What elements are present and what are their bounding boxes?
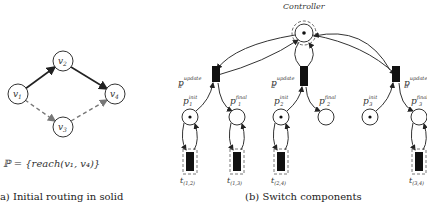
place-p3-final bbox=[411, 109, 427, 125]
arc-t12-p1init bbox=[194, 124, 197, 150]
arc-t24-p2init bbox=[285, 124, 288, 150]
place-p1-init bbox=[182, 109, 198, 125]
node-v1: v1 bbox=[8, 84, 28, 104]
arc-controller-p3update bbox=[313, 35, 395, 74]
edge-v1-v2 bbox=[25, 67, 55, 89]
arc-p3init-update bbox=[376, 83, 393, 111]
edge-v3-v4 bbox=[71, 100, 107, 121]
transition-p3-update bbox=[392, 66, 400, 82]
token-icon bbox=[302, 31, 306, 35]
caption-a: (a) Initial routing in solid bbox=[0, 191, 124, 202]
p1-update-label: pupdate1 bbox=[178, 75, 201, 89]
t34-label: t(3,4) bbox=[409, 176, 424, 186]
transition-t24 bbox=[274, 149, 288, 174]
p1-final-label: pfinal1 bbox=[230, 94, 247, 107]
p3-final-label: pfinal3 bbox=[411, 94, 427, 107]
arc-p3final-t34 bbox=[411, 123, 415, 150]
arc-t34-p3final bbox=[423, 124, 426, 150]
routing-graph: v1 v2 v3 v4 bbox=[8, 51, 125, 137]
arc-p1init-t12 bbox=[182, 123, 186, 150]
arc-p2update-loop-left bbox=[295, 42, 300, 66]
caption-b: (b) Switch components bbox=[245, 191, 362, 202]
policy-formula: ℙ = {reach(v₁, v₄)} bbox=[3, 158, 100, 169]
arc-p1final-t13 bbox=[229, 123, 233, 150]
edge-v2-v4 bbox=[71, 67, 107, 89]
t24-label: t(2,4) bbox=[271, 176, 286, 186]
transition-t13 bbox=[230, 149, 244, 174]
figure-canvas: v1 v2 v3 v4 ℙ = {reach(v₁, v₄)} (a) Init… bbox=[0, 0, 427, 202]
p2-final-label: pfinal2 bbox=[319, 94, 336, 107]
t13-label: t(1,3) bbox=[227, 176, 242, 186]
controller-label: Controller bbox=[283, 2, 326, 11]
arc-p2init-t24 bbox=[273, 123, 277, 150]
p3-update-label: pupdate3 bbox=[404, 75, 427, 89]
place-p1-final bbox=[229, 109, 245, 125]
place-p3-init bbox=[362, 109, 378, 125]
place-p2-final bbox=[318, 109, 334, 125]
p2-init-label: pinit2 bbox=[274, 94, 289, 107]
edge-v1-v3 bbox=[25, 100, 55, 121]
p1-init-label: pinit1 bbox=[183, 94, 198, 107]
p2-update-label: pupdate2 bbox=[271, 75, 294, 89]
transition-p2-update bbox=[300, 66, 308, 86]
t12-label: t(1,2) bbox=[180, 176, 195, 186]
node-v4: v4 bbox=[105, 84, 125, 104]
arc-t13-p1final bbox=[241, 124, 244, 150]
arc-controller-p1update bbox=[217, 35, 295, 69]
arc-p1init-update bbox=[196, 83, 213, 111]
transition-t12 bbox=[183, 149, 197, 174]
arc-p2init-update bbox=[287, 87, 302, 111]
node-v3: v3 bbox=[53, 117, 73, 137]
arc-p2update-loop-right bbox=[308, 43, 313, 66]
transition-p1-update bbox=[212, 66, 220, 82]
arc-update-p2final bbox=[306, 87, 320, 111]
p3-init-label: pinit3 bbox=[363, 94, 378, 107]
transition-t34 bbox=[412, 149, 426, 174]
node-v2: v2 bbox=[53, 51, 73, 71]
arc-p3update-controller bbox=[314, 34, 390, 70]
place-p2-init bbox=[273, 109, 289, 125]
